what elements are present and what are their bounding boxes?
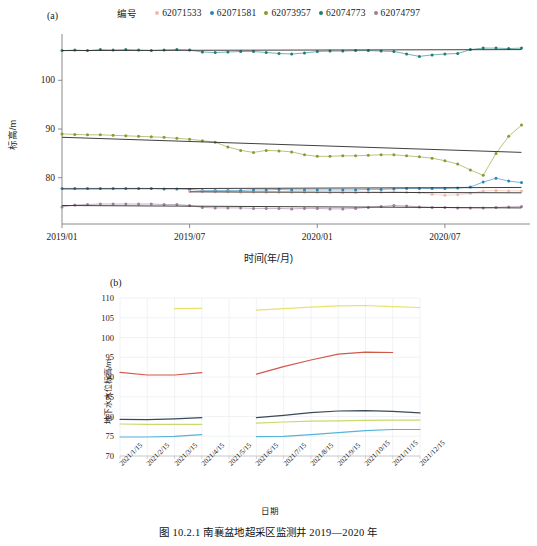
legend-marker-icon [155, 11, 159, 15]
chart-a-axis-ticks: 80901002019/012019/072020/012020/07 [0, 24, 537, 274]
chart-a-x-tick: 2020/01 [302, 232, 333, 242]
legend-item-label: 62071581 [217, 8, 257, 18]
chart-b-plot [0, 276, 537, 526]
legend-marker-icon [319, 11, 323, 15]
chart-a-x-tick: 2019/07 [174, 232, 205, 242]
series-62071533 [120, 420, 420, 424]
chart-a-y-tick: 100 [25, 75, 55, 85]
chart-a-x-tick: 2020/07 [429, 232, 460, 242]
legend-item-62071533[interactable]: 62071533 [155, 8, 202, 18]
legend-item-label: 62074797 [381, 8, 421, 18]
chart-a-x-tick: 2019/01 [46, 232, 77, 242]
chart-b-y-tick: 90 [92, 372, 114, 382]
legend-marker-icon [264, 11, 268, 15]
series-62074773 [175, 306, 421, 311]
legend-marker-icon [210, 11, 214, 15]
chart-b-y-tick: 105 [92, 313, 114, 323]
series-62071581 [120, 411, 420, 420]
chart-panel-b: 地下水水位标高/m 日期 7075808590951001051102021/1… [0, 276, 537, 526]
chart-b-y-tick: 70 [92, 451, 114, 461]
chart-b-y-tick: 75 [92, 431, 114, 441]
panel-a-tag: (a) [47, 10, 58, 21]
legend-item-label: 62073957 [271, 8, 311, 18]
figure-caption: 图 10.2.1 南襄盆地超采区监测井 2019—2020 年 [0, 524, 537, 539]
chart-b-y-tick: 85 [92, 392, 114, 402]
chart-b-x-axis-label: 日期 [110, 504, 430, 516]
chart-panel-a: 标高/m 时间(年/月) 80901002019/012019/072020/0… [0, 24, 537, 274]
legend-item-62074773[interactable]: 62074773 [319, 8, 366, 18]
figure-root: 编号 62071533 62071581 62073957 62074773 6… [0, 0, 537, 546]
legend: 编号 62071533 62071581 62073957 62074773 6… [0, 6, 537, 20]
legend-marker-icon [374, 11, 378, 15]
chart-a-y-tick: 80 [25, 173, 55, 183]
chart-b-y-tick: 95 [92, 352, 114, 362]
chart-a-y-tick: 90 [25, 124, 55, 134]
chart-b-y-tick: 110 [92, 293, 114, 303]
legend-item-label: 62071533 [162, 8, 202, 18]
legend-item-62073957[interactable]: 62073957 [264, 8, 311, 18]
legend-item-62071581[interactable]: 62071581 [210, 8, 257, 18]
chart-b-y-tick: 80 [92, 412, 114, 422]
chart-b-y-tick: 100 [92, 333, 114, 343]
legend-item-62074797[interactable]: 62074797 [374, 8, 421, 18]
legend-item-label: 62074773 [326, 8, 366, 18]
legend-title: 编号 [117, 6, 137, 20]
